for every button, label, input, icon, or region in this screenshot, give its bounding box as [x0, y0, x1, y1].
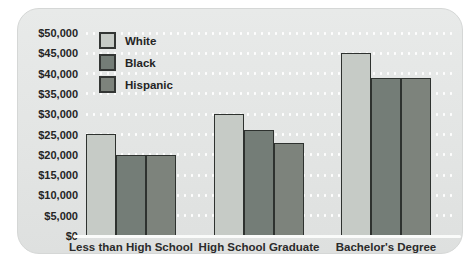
bar-white-group3: [341, 53, 371, 236]
y-axis: $0$5,000$10,000$15,000$20,000$25,000$30,…: [18, 33, 78, 236]
legend-label: Hispanic: [125, 79, 173, 91]
y-tick-label: $30,000: [18, 107, 78, 121]
legend-label: White: [125, 35, 156, 47]
legend: WhiteBlackHispanic: [99, 33, 173, 99]
bar-black-group2: [244, 130, 274, 236]
legend-item: Black: [99, 55, 173, 70]
category-label: Bachelor's Degree: [336, 241, 437, 253]
bar-white-group1: [86, 134, 116, 236]
bar-black-group3: [371, 78, 401, 236]
chart-panel: $0$5,000$10,000$15,000$20,000$25,000$30,…: [17, 8, 463, 254]
y-tick-label: $45,000: [18, 46, 78, 60]
y-tick-label: $40,000: [18, 67, 78, 81]
y-tick-label: $10,000: [18, 188, 78, 202]
legend-label: Black: [125, 57, 156, 69]
y-tick-label: $35,000: [18, 87, 78, 101]
y-tick-label: $5,000: [18, 209, 78, 223]
legend-item: White: [99, 33, 173, 48]
y-tick-label: $15,000: [18, 168, 78, 182]
y-tick-label: $50,000: [18, 26, 78, 40]
bar-hispanic-group2: [274, 143, 304, 236]
bar-black-group1: [116, 155, 146, 236]
y-tick-label: $20,000: [18, 148, 78, 162]
legend-swatch-hispanic: [99, 76, 116, 93]
legend-item: Hispanic: [99, 77, 173, 92]
bar-hispanic-group3: [401, 78, 431, 236]
category-label: Less than High School: [69, 241, 193, 253]
legend-swatch-white: [99, 32, 116, 49]
x-axis-baseline: [73, 235, 461, 238]
bar-hispanic-group1: [146, 155, 176, 236]
category-label: High School Graduate: [199, 241, 320, 253]
bar-white-group2: [214, 114, 244, 236]
legend-swatch-black: [99, 54, 116, 71]
y-tick-label: $25,000: [18, 128, 78, 142]
